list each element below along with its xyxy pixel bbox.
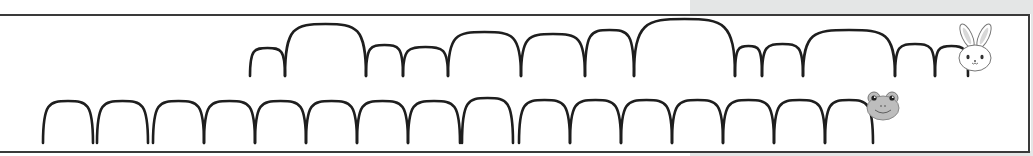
frog-icon [867, 92, 899, 120]
hop-arc [585, 30, 634, 76]
hop-arc [521, 34, 585, 76]
hop-arc [403, 47, 448, 76]
hop-arc [408, 101, 460, 143]
hop-paths-canvas [0, 0, 1033, 156]
hop-arc [366, 45, 403, 76]
hop-arc [97, 101, 148, 143]
hop-arc [895, 44, 935, 76]
hop-arc [519, 100, 570, 143]
hop-arc [462, 98, 513, 143]
hop-arc [306, 101, 357, 143]
hop-arc [153, 101, 204, 143]
hop-arc [204, 101, 255, 143]
hop-arc [634, 19, 735, 76]
hop-arc [448, 32, 521, 76]
hop-arc [285, 24, 366, 76]
hop-arc [762, 44, 803, 76]
hop-arc [774, 100, 825, 143]
hop-arc [43, 101, 93, 143]
hop-arc [672, 100, 723, 143]
hop-arc [357, 101, 408, 143]
hop-arc [735, 46, 762, 76]
hop-arc [255, 101, 306, 143]
hop-arc [250, 48, 285, 76]
hop-arc [723, 100, 774, 143]
hop-arc [825, 100, 873, 143]
hop-arc [621, 100, 672, 143]
bunny-hop-row [250, 19, 968, 76]
frog-hop-row [43, 98, 873, 143]
hop-arc [570, 100, 621, 143]
bunny-icon [957, 22, 994, 71]
hop-arc [803, 30, 895, 76]
